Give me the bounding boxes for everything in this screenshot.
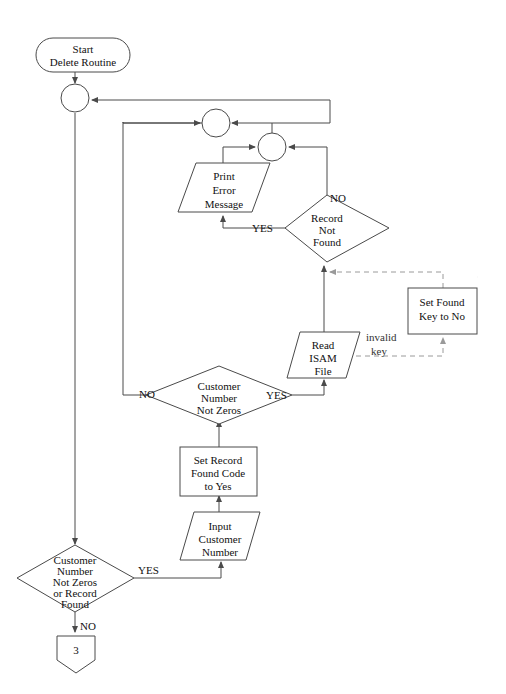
set-record-line-2: Found Code [191, 467, 245, 479]
connector-circle-b [202, 109, 230, 137]
record-not-found-line-3: Found [313, 236, 342, 248]
connector-circle-a [61, 84, 89, 112]
label-record-not-found-no: NO [330, 192, 346, 204]
set-found-key-line-2: Key to No [419, 310, 465, 322]
print-error-line-3: Message [205, 198, 244, 210]
label-loop-yes: YES [138, 564, 159, 576]
label-record-not-found-yes: YES [252, 222, 273, 234]
label-invalid-key-line-1: invalid [366, 331, 397, 343]
input-customer-line-1: Input [208, 520, 231, 532]
input-customer-line-3: Number [202, 546, 238, 558]
read-isam-line-2: ISAM [309, 352, 337, 364]
offpage-connector-label: 3 [73, 644, 79, 656]
cust-not-zeros-line-2: Number [201, 392, 237, 404]
connector-circle-c [258, 133, 286, 161]
label-cust-not-zeros-no: NO [139, 388, 155, 400]
input-customer-line-2: Customer [199, 533, 242, 545]
loop-decision-line-5: Found [61, 598, 90, 610]
record-not-found-line-1: Record [311, 212, 343, 224]
edge-connector-b-right-in [232, 100, 330, 123]
start-terminator-line-1: Start [73, 43, 94, 55]
read-isam-line-3: File [314, 365, 331, 377]
record-not-found-node [285, 195, 389, 262]
read-isam-line-1: Read [312, 339, 335, 351]
label-loop-no: NO [80, 620, 96, 632]
edge-cust-yes-to-read-isam [292, 380, 324, 395]
set-found-key-line-1: Set Found [420, 296, 465, 308]
set-record-line-3: to Yes [205, 480, 232, 492]
edge-record-no-to-connector-c [289, 147, 327, 195]
start-terminator-line-2: Delete Routine [50, 56, 116, 68]
edge-print-error-to-connector-c [223, 147, 255, 163]
record-not-found-line-2: Not [319, 224, 336, 236]
label-invalid-key-line-2: key [371, 345, 387, 357]
print-error-line-1: Print [213, 170, 234, 182]
flowchart-svg: Start Delete Routine Print Error Message… [0, 0, 506, 694]
edge-set-found-key-to-main [330, 272, 443, 288]
set-record-line-1: Set Record [194, 454, 243, 466]
flowchart-canvas: Start Delete Routine Print Error Message… [0, 0, 506, 694]
print-error-line-2: Error [212, 184, 236, 196]
cust-not-zeros-line-3: Not Zeros [197, 404, 241, 416]
cust-not-zeros-line-1: Customer [198, 380, 241, 392]
label-cust-not-zeros-yes: YES [266, 389, 287, 401]
